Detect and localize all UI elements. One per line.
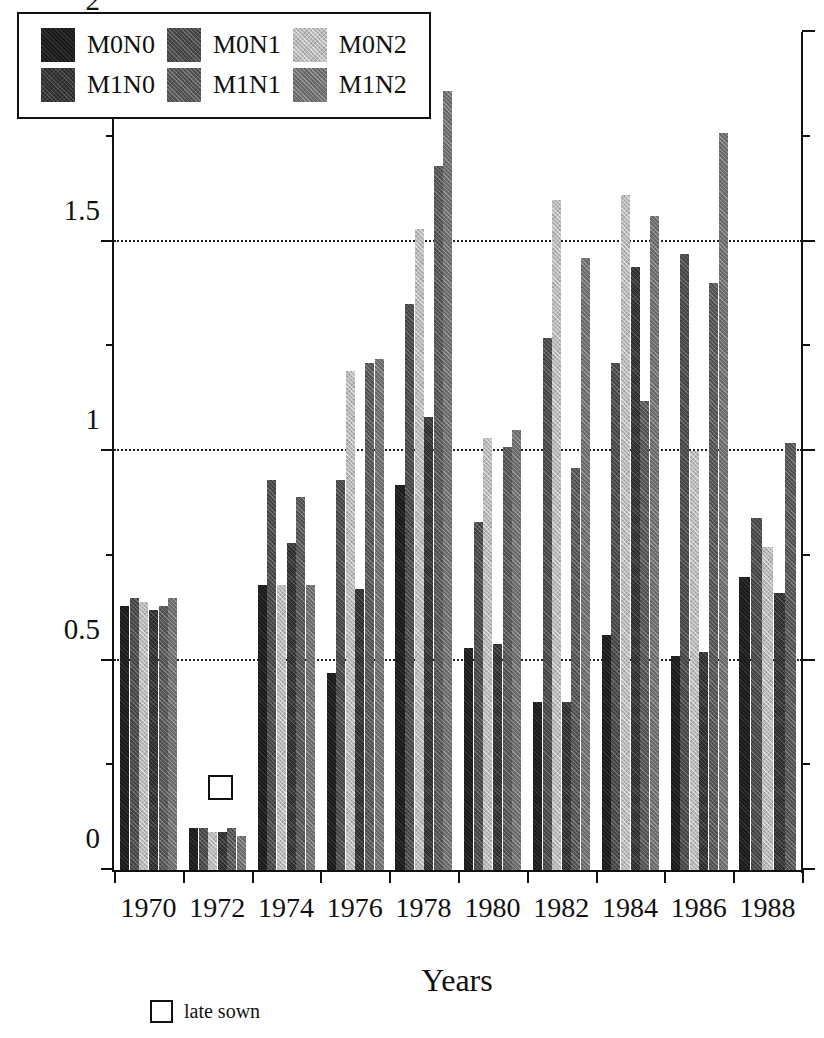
y-tick-minor-0p25 (106, 763, 114, 765)
bar-1980-M0N0 (464, 648, 473, 870)
x-tick-1986 (664, 870, 666, 883)
bar-1982-M0N0 (533, 702, 542, 870)
bar-1980-M1N1 (503, 447, 512, 870)
plot-right-spine (801, 32, 803, 873)
bar-group-1988 (739, 32, 796, 870)
x-tick-1974 (252, 870, 254, 883)
bar-group-1976 (327, 32, 384, 870)
bar-1972-M0N1 (199, 828, 208, 870)
bar-1976-M0N1 (336, 480, 345, 870)
legend-label-m1n0: M1N0 (81, 65, 161, 105)
bar-1976-M0N0 (327, 673, 336, 870)
y-tick-minor-1p25 (802, 344, 810, 346)
bar-1972-M1N1 (227, 828, 236, 870)
legend-label-m1n2: M1N2 (333, 65, 413, 105)
x-tick-1984 (596, 870, 598, 883)
legend-swatch-m1n1 (161, 65, 207, 105)
x-tick-1982 (527, 870, 529, 883)
bar-1978-M1N1 (434, 166, 443, 870)
legend-row-top: M0N0 M0N1 M0N2 (35, 25, 413, 65)
bar-1984-M1N1 (640, 401, 649, 870)
x-tick-1972 (183, 870, 185, 883)
footnote-label: late sown (184, 1000, 260, 1023)
y-tick-1 (101, 449, 114, 451)
bar-1972-M1N0 (218, 832, 227, 870)
bar-1976-M1N2 (375, 359, 384, 870)
x-tick-label-1978: 1978 (396, 892, 452, 924)
bar-1980-M0N1 (474, 522, 483, 870)
bar-1988-M1N1 (785, 443, 796, 870)
legend-label-m0n1: M0N1 (207, 25, 287, 65)
bar-1986-M0N0 (671, 656, 680, 870)
legend: M0N0 M0N1 M0N2 M1N0 M1N1 M1N2 (17, 12, 431, 119)
y-tick-label-1.5: 1.5 (64, 193, 100, 226)
bar-1980-M0N2 (483, 438, 492, 870)
bar-1970-M1N1 (159, 606, 168, 870)
late-sown-square-icon (150, 1000, 173, 1023)
x-axis-title: Years (112, 962, 802, 999)
x-tick-label-1970: 1970 (120, 892, 176, 924)
bar-group-1974 (258, 32, 315, 870)
legend-swatch-m0n1 (161, 25, 207, 65)
bar-1984-M0N2 (621, 195, 630, 870)
legend-label-m0n2: M0N2 (333, 25, 413, 65)
bar-1970-M0N0 (120, 606, 129, 870)
bar-1972-M0N0 (189, 828, 198, 870)
bar-group-1970 (120, 32, 177, 870)
y-tick-1 (802, 449, 815, 451)
x-tick-label-1984: 1984 (602, 892, 658, 924)
bar-1984-M1N0 (631, 267, 640, 870)
x-tick-label-1982: 1982 (533, 892, 589, 924)
bar-1988-M1N0 (774, 593, 785, 870)
bar-group-1982 (533, 32, 590, 870)
legend-swatch-m1n2 (287, 65, 333, 105)
bar-1986-M1N2 (719, 133, 728, 870)
y-tick-0 (101, 868, 114, 870)
legend-row-bottom: M1N0 M1N1 M1N2 (35, 65, 413, 105)
bar-1970-M1N2 (168, 598, 177, 870)
y-tick-1.5 (101, 240, 114, 242)
y-tick-minor-1p75 (802, 135, 810, 137)
bar-1980-M1N0 (493, 644, 502, 870)
legend-label-m0n0: M0N0 (81, 25, 161, 65)
legend-label-m1n1: M1N1 (207, 65, 287, 105)
y-tick-0.5 (101, 659, 114, 661)
x-tick-1970 (114, 870, 116, 883)
bar-1978-M0N1 (405, 304, 414, 870)
bar-1976-M1N1 (365, 363, 374, 870)
x-tick-label-1980: 1980 (464, 892, 520, 924)
y-tick-minor-0p25 (802, 763, 810, 765)
x-tick-label-1972: 1972 (189, 892, 245, 924)
bar-1970-M0N2 (139, 602, 148, 870)
bar-1978-M1N0 (424, 417, 433, 870)
bar-1988-M0N2 (762, 547, 773, 870)
bar-group-1978 (395, 32, 452, 870)
y-tick-2 (802, 30, 815, 32)
bar-1976-M1N0 (355, 589, 364, 870)
bar-1970-M1N0 (149, 610, 158, 870)
bar-1978-M1N2 (443, 91, 452, 870)
bar-1974-M0N0 (258, 585, 267, 870)
bar-1984-M0N1 (611, 363, 620, 870)
bar-1978-M0N2 (415, 229, 424, 870)
x-tick-1988 (733, 870, 735, 883)
x-tick-label-1986: 1986 (671, 892, 727, 924)
bar-1974-M0N2 (277, 585, 286, 870)
bar-1984-M1N2 (650, 216, 659, 870)
bar-1980-M1N2 (512, 430, 521, 870)
y-tick-minor-1p25 (106, 344, 114, 346)
bar-1988-M0N1 (751, 518, 762, 870)
y-tick-1.5 (802, 240, 815, 242)
x-tick-label-1976: 1976 (327, 892, 383, 924)
bar-1982-M1N2 (581, 258, 590, 870)
legend-swatch-m1n0 (35, 65, 81, 105)
bar-1974-M1N0 (287, 543, 296, 870)
x-tick-label-1974: 1974 (258, 892, 314, 924)
y-tick-0.5 (802, 659, 815, 661)
bar-group-1986 (671, 32, 728, 870)
plot-area: 00.511.52 197019721974197619781980198219… (112, 32, 802, 872)
x-tick-label-1988: 1988 (740, 892, 796, 924)
bar-group-1984 (602, 32, 659, 870)
bar-1974-M1N1 (296, 497, 305, 870)
footnote: late sown (150, 1000, 260, 1023)
